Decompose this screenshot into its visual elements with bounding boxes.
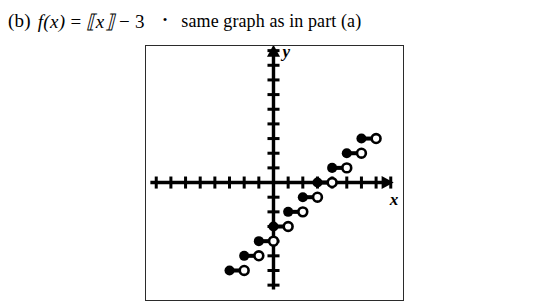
graph-frame: x y — [145, 45, 404, 301]
x-axis-label: x — [389, 190, 399, 209]
open-endpoint-circle — [284, 222, 293, 231]
closed-endpoint-dot — [312, 178, 322, 188]
open-endpoint-circle — [342, 163, 351, 172]
formula-equals: = — [70, 11, 81, 32]
step-function-plot: x y — [146, 46, 403, 300]
step-segments — [225, 134, 381, 276]
caption: (b) f(x) = ⟦x⟧ − 3 • same graph as in pa… — [8, 4, 533, 38]
closed-endpoint-dot — [254, 236, 264, 246]
step-segment — [283, 207, 307, 217]
formula-minus: − — [119, 11, 130, 32]
same-graph-note: same graph as in part (a) — [181, 11, 361, 32]
open-endpoint-circle — [298, 207, 307, 216]
step-segment — [327, 163, 351, 173]
open-endpoint-circle — [240, 266, 249, 275]
function-formula: f(x) = ⟦x⟧ − 3 — [38, 10, 145, 33]
step-segment — [298, 192, 322, 202]
closed-endpoint-dot — [225, 265, 235, 275]
step-segment — [312, 178, 336, 188]
step-segment — [342, 148, 366, 158]
step-segment — [356, 134, 380, 144]
open-endpoint-circle — [372, 134, 381, 143]
bullet-icon: • — [163, 13, 168, 26]
closed-endpoint-dot — [327, 163, 337, 173]
formula-floor-expression: ⟦x⟧ — [86, 11, 113, 32]
y-axis-label: y — [281, 46, 291, 61]
open-endpoint-circle — [269, 237, 278, 246]
closed-endpoint-dot — [239, 251, 249, 261]
open-endpoint-circle — [254, 251, 263, 260]
closed-endpoint-dot — [268, 221, 278, 231]
open-endpoint-circle — [328, 178, 337, 187]
closed-endpoint-dot — [298, 192, 308, 202]
step-segment — [254, 236, 278, 246]
open-endpoint-circle — [357, 149, 366, 158]
axes — [150, 46, 393, 290]
part-label: (b) — [8, 10, 31, 32]
closed-endpoint-dot — [283, 207, 293, 217]
formula-constant: 3 — [135, 11, 145, 32]
open-endpoint-circle — [313, 193, 322, 202]
step-segment — [225, 265, 249, 275]
formula-fx: f(x) — [38, 11, 66, 32]
closed-endpoint-dot — [342, 148, 352, 158]
closed-endpoint-dot — [356, 134, 366, 144]
step-segment — [239, 251, 263, 261]
step-segment — [268, 221, 292, 231]
